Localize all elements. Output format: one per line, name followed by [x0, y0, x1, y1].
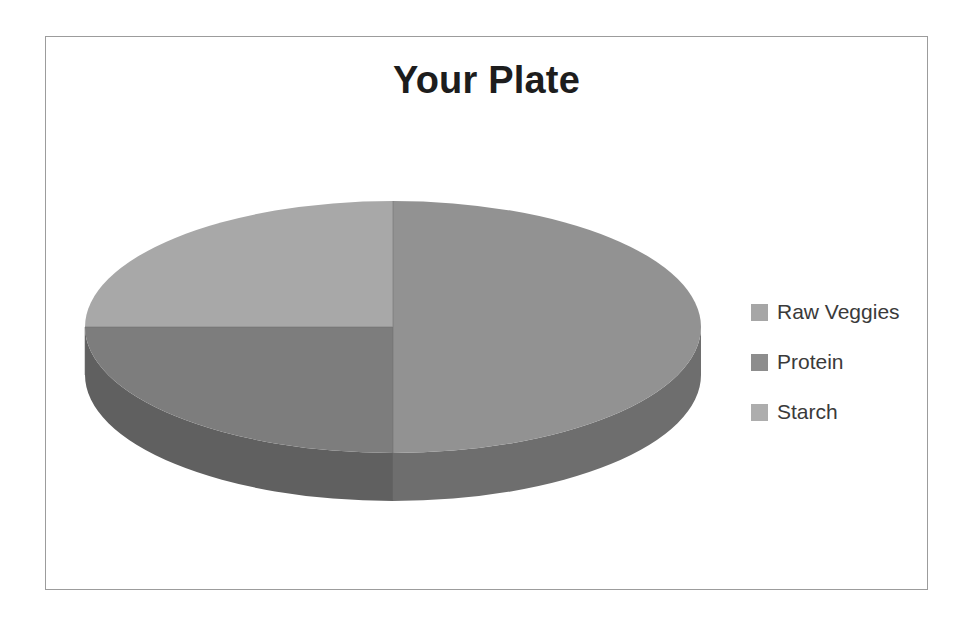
pie-chart-svg: [46, 127, 746, 587]
legend-label-protein: Protein: [777, 350, 844, 374]
legend-label-starch: Starch: [777, 400, 838, 424]
legend-item-protein[interactable]: Protein: [751, 337, 926, 387]
legend-item-raw-veggies[interactable]: Raw Veggies: [751, 287, 926, 337]
chart-legend: Raw Veggies Protein Starch: [751, 287, 926, 437]
legend-label-raw-veggies: Raw Veggies: [777, 300, 900, 324]
square-swatch-icon: [751, 404, 768, 421]
pie-chart-plot-area: [46, 127, 746, 587]
pie-slice-raw-veggies[interactable]: [85, 201, 393, 327]
square-swatch-icon: [751, 304, 768, 321]
square-swatch-icon: [751, 354, 768, 371]
chart-title: Your Plate: [46, 59, 927, 102]
legend-item-starch[interactable]: Starch: [751, 387, 926, 437]
chart-frame: Your Plate: [45, 36, 928, 590]
